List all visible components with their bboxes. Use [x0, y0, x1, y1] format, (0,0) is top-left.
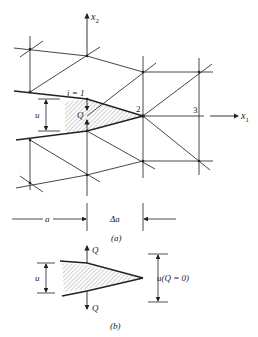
- figure-svg: x2 x1 i = 1 2 3 Q u a Δa (a): [0, 0, 258, 337]
- u-q-zero-label: u(Q = 0): [157, 273, 189, 283]
- x2-axis: x2: [87, 11, 99, 56]
- x2-axis-label: x2: [90, 11, 99, 25]
- crack-tip-detail: [60, 261, 143, 296]
- q-top-label: Q: [92, 245, 99, 255]
- a-label: a: [45, 214, 50, 224]
- u-opening-dimension: [38, 99, 60, 131]
- node-label-1: i = 1: [67, 88, 85, 98]
- delta-a-label: Δa: [109, 214, 120, 224]
- node-label-2: 2: [136, 104, 141, 114]
- caption-b: (b): [110, 321, 121, 331]
- u-label: u: [35, 110, 40, 120]
- u-dimension-b: [37, 263, 55, 293]
- q-bottom-label: Q: [92, 303, 99, 313]
- u-label-b: u: [35, 273, 40, 283]
- x1-axis-label: x1: [240, 110, 249, 124]
- crack-tip-figure: x2 x1 i = 1 2 3 Q u a Δa (a): [0, 0, 258, 337]
- node-label-3: 3: [193, 105, 198, 115]
- q-force-label: Q: [77, 110, 84, 120]
- caption-a: (a): [111, 233, 122, 243]
- crack-length-dimension: [12, 203, 176, 231]
